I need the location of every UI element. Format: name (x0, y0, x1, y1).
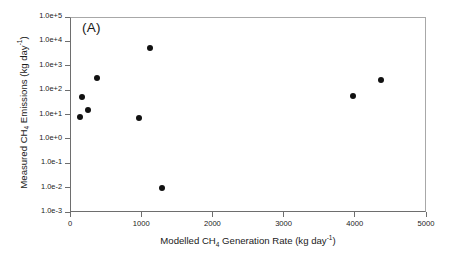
x-axis-title-suffix: ) (332, 235, 335, 246)
y-axis-tick-label: 1.0e+5 (0, 11, 62, 20)
y-axis-tick-label: 1.0e+0 (0, 133, 62, 142)
y-axis-tick-mark (65, 90, 70, 91)
data-point (159, 185, 165, 191)
x-axis-tick-mark (426, 212, 427, 217)
plot-area (70, 17, 426, 212)
y-axis-tick-mark (65, 17, 70, 18)
y-axis-tick-label: 1.0e+3 (0, 60, 62, 69)
panel-label: (A) (82, 20, 101, 35)
y-axis-title-suffix: ) (18, 36, 29, 39)
x-axis-title: Modelled CH4 Generation Rate (kg day-1) (70, 235, 426, 246)
y-axis-title-mid: Emissions (kg day (18, 45, 29, 126)
scatter-plot-figure: (A) 1.0e+51.0e+41.0e+31.0e+21.0e+11.0e+0… (0, 0, 455, 260)
x-axis-tick-mark (141, 212, 142, 217)
y-axis-tick-label: 1.0e-2 (0, 182, 62, 191)
y-axis-tick-mark (65, 187, 70, 188)
y-axis-tick-label: 1.0e-1 (0, 157, 62, 166)
x-axis-tick-label: 3000 (254, 219, 314, 228)
y-axis-tick-mark (65, 65, 70, 66)
y-axis-tick-label: 1.0e+2 (0, 84, 62, 93)
x-axis-tick-mark (212, 212, 213, 217)
y-axis-tick-mark (65, 41, 70, 42)
x-axis-tick-mark (354, 212, 355, 217)
y-axis-title-prefix: Measured CH (18, 129, 29, 188)
y-axis-tick-label: 1.0e+4 (0, 35, 62, 44)
data-point (147, 45, 153, 51)
y-axis-tick-label: 1.0e-3 (0, 206, 62, 215)
data-point (77, 114, 83, 120)
x-axis-title-mid: Generation Rate (kg day (219, 235, 326, 246)
y-axis-tick-mark (65, 163, 70, 164)
x-axis-tick-label: 5000 (396, 219, 455, 228)
x-axis-tick-label: 0 (40, 219, 100, 228)
y-axis-title: Measured CH4 Emissions (kg day-1) (18, 13, 29, 213)
y-axis-title-subscript: 4 (23, 126, 30, 130)
x-axis-tick-mark (70, 212, 71, 217)
y-axis-title-superscript: -1 (16, 40, 23, 46)
y-axis-tick-mark (65, 114, 70, 115)
data-point (85, 107, 91, 113)
y-axis-tick-label: 1.0e+1 (0, 109, 62, 118)
data-point (350, 93, 356, 99)
x-axis-tick-mark (283, 212, 284, 217)
x-axis-tick-label: 4000 (325, 219, 385, 228)
x-axis-tick-label: 1000 (111, 219, 171, 228)
x-axis-tick-label: 2000 (182, 219, 242, 228)
x-axis-title-prefix: Modelled CH (160, 235, 215, 246)
y-axis-tick-mark (65, 138, 70, 139)
